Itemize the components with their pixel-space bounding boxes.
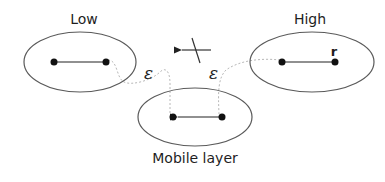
low-dot-left: [51, 59, 58, 66]
low-layer: Low: [24, 11, 136, 92]
mobile-label: Mobile layer: [152, 150, 238, 166]
mobile-dot-left: [170, 114, 177, 121]
epsilon-left: ε: [144, 63, 153, 83]
epsilon-right: ε: [209, 63, 218, 83]
mobile-layer: Mobile layer: [138, 88, 252, 166]
layer-diagram: Low r High Mobile layer ε ε: [0, 0, 385, 182]
high-dot-left: [279, 59, 286, 66]
low-label: Low: [70, 11, 98, 27]
high-dot-right: [332, 59, 339, 66]
high-layer: r High: [250, 11, 374, 92]
mobile-dot-right: [219, 114, 226, 121]
connector-high-to-mobile: [219, 59, 280, 114]
crossed-arrow-icon: [182, 38, 211, 63]
point-label-r: r: [331, 44, 338, 59]
high-label: High: [294, 11, 326, 27]
low-dot-right: [103, 59, 110, 66]
connector-low-to-mobile: [108, 60, 170, 114]
